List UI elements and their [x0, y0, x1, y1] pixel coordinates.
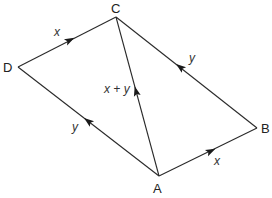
vector-label-ab: x — [213, 154, 221, 168]
arrow-icon-dc — [64, 35, 76, 46]
vector-diagram: C D A B x y y x x + y — [0, 0, 272, 198]
edge-cb — [116, 17, 257, 128]
edge-ac-diagonal — [116, 17, 159, 176]
vertex-label-c: C — [111, 1, 120, 16]
vector-label-ac: x + y — [103, 82, 131, 96]
vector-label-dc: x — [53, 25, 61, 39]
vertex-label-d: D — [3, 60, 12, 75]
vector-label-bc: y — [188, 51, 196, 65]
vector-label-ad: y — [71, 120, 79, 134]
arrow-icon-ac — [131, 85, 140, 96]
vertex-label-b: B — [261, 121, 270, 136]
vertex-label-a: A — [153, 181, 162, 196]
edge-dc — [18, 17, 116, 67]
